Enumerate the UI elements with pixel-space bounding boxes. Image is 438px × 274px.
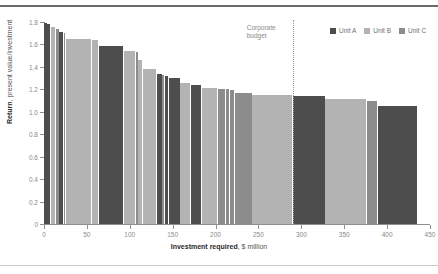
bar: [138, 60, 141, 224]
x-axis-tick-label: 100: [124, 231, 135, 238]
y-axis-title-rest: , present value/investment: [6, 20, 13, 102]
bar: [378, 106, 418, 224]
bar: [293, 96, 325, 224]
bar: [218, 89, 225, 224]
chart-exhibit: Return, present value/investment Investm…: [0, 0, 438, 274]
x-axis-tick-label: 250: [253, 231, 264, 238]
y-axis-tick: [40, 44, 44, 45]
x-axis-tick-label: 450: [425, 231, 436, 238]
corporate-budget-label-line1: Corporate: [247, 24, 276, 32]
y-axis-tick-label: 1.6: [29, 41, 38, 48]
y-axis-tick: [40, 22, 44, 23]
bar: [143, 69, 157, 224]
y-axis-tick: [40, 112, 44, 113]
bar: [92, 40, 98, 224]
bar: [157, 74, 161, 224]
y-axis-tick-label: 0: [34, 221, 38, 228]
bar: [367, 101, 377, 224]
bar: [44, 23, 47, 224]
corporate-budget-line: [293, 20, 294, 224]
y-axis-tick: [40, 179, 44, 180]
x-axis-tick: [216, 225, 217, 229]
bar: [136, 52, 138, 224]
bar: [124, 51, 135, 224]
bar: [66, 39, 91, 224]
y-axis-tick: [40, 202, 44, 203]
x-axis-tick: [387, 225, 388, 229]
y-axis-tick-label: 0.4: [29, 176, 38, 183]
bar: [56, 29, 59, 224]
bar: [230, 90, 234, 224]
x-axis-tick-label: 350: [339, 231, 350, 238]
y-axis-tick: [40, 134, 44, 135]
x-axis-title-strong: Investment required: [171, 243, 238, 250]
x-axis-tick: [258, 225, 259, 229]
x-axis-tick-label: 400: [382, 231, 393, 238]
bar: [252, 95, 292, 224]
bar: [180, 83, 189, 224]
bar: [202, 88, 218, 224]
y-axis-tick-label: 1.2: [29, 86, 38, 93]
y-axis-tick-label: 1.4: [29, 63, 38, 70]
y-axis-tick-label: 0.2: [29, 198, 38, 205]
bar: [325, 99, 365, 224]
y-axis-tick: [40, 89, 44, 90]
x-axis-title-rest: , $ million: [238, 243, 268, 250]
x-axis-line: [44, 224, 430, 225]
y-axis-tick-label: 0.8: [29, 131, 38, 138]
y-axis-tick-label: 1.0: [29, 108, 38, 115]
bar: [226, 89, 229, 224]
y-axis-tick: [40, 67, 44, 68]
bar: [47, 24, 50, 224]
x-axis-tick: [87, 225, 88, 229]
bar: [169, 78, 179, 224]
y-axis-title: Return, present value/investment: [6, 20, 13, 124]
x-axis-tick: [344, 225, 345, 229]
plot-area: 00.20.40.60.81.01.21.41.61.8050100150200…: [44, 22, 430, 224]
bar: [99, 46, 123, 224]
corporate-budget-label-line2: budget: [247, 32, 276, 40]
y-axis-tick: [40, 157, 44, 158]
y-axis-tick-label: 0.6: [29, 153, 38, 160]
y-axis-title-strong: Return: [6, 101, 13, 124]
x-axis-tick-label: 150: [167, 231, 178, 238]
bar: [59, 32, 62, 224]
bar: [64, 33, 66, 224]
y-axis-tick-label: 1.8: [29, 19, 38, 26]
x-axis-tick: [44, 225, 45, 229]
exhibit-top-rule: [0, 5, 438, 7]
x-axis-title: Investment required, $ million: [0, 243, 438, 250]
bar: [162, 75, 164, 224]
exhibit-bottom-rule: [0, 265, 438, 266]
bar: [191, 85, 201, 224]
x-axis-tick: [130, 225, 131, 229]
x-axis-tick-label: 200: [210, 231, 221, 238]
corporate-budget-label: Corporatebudget: [247, 24, 276, 40]
x-axis-tick-label: 50: [83, 231, 90, 238]
x-axis-tick-label: 0: [42, 231, 46, 238]
x-axis-tick: [173, 225, 174, 229]
bar: [51, 27, 55, 225]
x-axis-tick: [301, 225, 302, 229]
x-axis-tick-label: 300: [296, 231, 307, 238]
x-axis-tick: [430, 225, 431, 229]
bar: [165, 76, 168, 224]
bar: [235, 93, 251, 224]
